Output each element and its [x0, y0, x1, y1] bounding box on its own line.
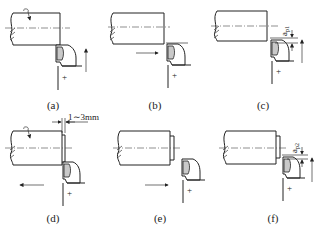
turning-process-diagram: + + +	[0, 0, 317, 235]
gap-label: 1∼3mm	[68, 112, 99, 122]
ap2-label: ap2	[289, 143, 300, 153]
caption-c: (c)	[248, 99, 278, 111]
cutting-tool: +	[182, 159, 205, 203]
panel-a: +	[5, 9, 86, 90]
caption-d: (d)	[38, 212, 68, 224]
cutting-tool: +	[271, 40, 294, 84]
plus-mark: +	[67, 188, 72, 198]
caption-e: (e)	[145, 212, 175, 224]
plus-mark: +	[172, 70, 177, 80]
panel-f: + ap2	[219, 131, 312, 201]
gap-dimension: 1∼3mm	[52, 112, 99, 133]
workpiece-shaft	[223, 131, 280, 164]
plus-mark: +	[62, 72, 67, 82]
ap1-label: ap1	[279, 26, 290, 36]
panel-d: 1∼3mm +	[5, 112, 99, 206]
cutting-tool: +	[167, 44, 191, 88]
plus-mark: +	[276, 66, 281, 76]
rotation-arrow-icon	[24, 9, 30, 20]
panel-b: +	[108, 13, 191, 88]
workpiece-shaft	[110, 13, 164, 44]
panel-c: + ap1	[211, 11, 302, 84]
caption-b: (b)	[140, 99, 170, 111]
workpiece-shaft	[10, 13, 60, 45]
plus-mark: +	[187, 185, 192, 195]
caption-a: (a)	[38, 99, 68, 111]
rotation-arrow-icon	[24, 127, 30, 138]
cutting-tool: +	[63, 162, 85, 206]
plus-mark: +	[287, 183, 292, 193]
caption-f: (f)	[258, 212, 288, 224]
panel-e: +	[113, 131, 205, 203]
cutting-tool: +	[56, 45, 82, 90]
